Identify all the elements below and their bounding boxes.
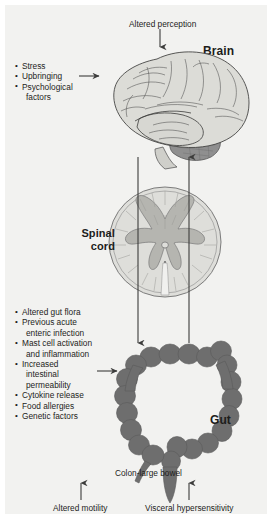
pathway-arrows: [5, 5, 267, 514]
visceral-hypersensitivity-caption: Visceral hypersensitivity: [145, 503, 233, 513]
brain-gut-axis-figure: Altered perception Stress Upbringing Psy…: [5, 5, 267, 514]
altered-motility-caption: Altered motility: [53, 503, 107, 513]
